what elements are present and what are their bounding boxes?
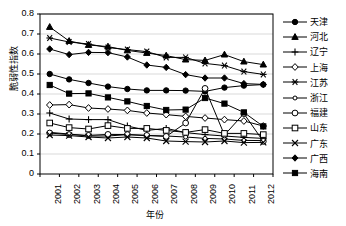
legend-label: 上海	[310, 61, 328, 74]
vulnerability-index-line-chart: 脆弱性指数 0.80.70.60.50.40.30.20.10 20012002…	[0, 0, 346, 226]
filled-square-icon	[282, 166, 308, 180]
legend-label: 海南	[310, 167, 328, 180]
legend-label: 江苏	[310, 76, 328, 89]
data-point-marker	[292, 64, 298, 71]
legend-item-广东[interactable]: 广东	[282, 136, 346, 151]
legend-item-浙江[interactable]: 浙江	[282, 90, 346, 105]
data-point-marker	[292, 110, 298, 116]
legend-label: 福建	[310, 106, 328, 119]
data-point-marker	[293, 96, 297, 100]
filled-triangle-icon	[282, 30, 308, 44]
x-tick-label: 2005	[131, 184, 140, 204]
x-tick-label: 2006	[151, 184, 160, 204]
x-tick-label: 2002	[73, 184, 82, 204]
data-point-marker	[292, 171, 297, 176]
legend-label: 天津	[310, 15, 328, 28]
x-tick-label: 2012	[267, 184, 276, 204]
data-point-marker	[292, 125, 298, 131]
x-tick-label: 2007	[170, 184, 179, 204]
legend-item-辽宁[interactable]: 辽宁	[282, 44, 346, 59]
x-tick-label: 2009	[209, 184, 218, 204]
legend-label: 广西	[310, 152, 328, 165]
x-tick-label: 2004	[112, 184, 121, 204]
legend-item-广西[interactable]: 广西	[282, 151, 346, 166]
x-tick-label: 2010	[228, 184, 237, 204]
filled-circle-icon	[282, 15, 308, 29]
x-tick-label: 2001	[54, 184, 63, 204]
x-tick-label: 2011	[248, 185, 257, 204]
legend-item-山东[interactable]: 山东	[282, 120, 346, 135]
data-point-marker	[292, 19, 297, 24]
legend-item-天津[interactable]: 天津	[282, 14, 346, 29]
open-square-icon	[282, 121, 308, 135]
cross-icon	[282, 136, 308, 150]
legend-item-海南[interactable]: 海南	[282, 166, 346, 181]
open-circle-icon	[282, 106, 308, 120]
legend: 天津河北辽宁上海江苏浙江福建山东广东广西海南	[282, 14, 346, 181]
plus-icon	[282, 45, 308, 59]
legend-item-福建[interactable]: 福建	[282, 105, 346, 120]
legend-item-上海[interactable]: 上海	[282, 60, 346, 75]
open-diamond-icon	[282, 60, 308, 74]
legend-label: 浙江	[310, 91, 328, 104]
legend-label: 广东	[310, 137, 328, 150]
x-tick-label: 2008	[190, 184, 199, 204]
legend-item-河北[interactable]: 河北	[282, 29, 346, 44]
legend-item-江苏[interactable]: 江苏	[282, 75, 346, 90]
data-point-marker	[292, 155, 298, 161]
small-open-circle-icon	[282, 91, 308, 105]
legend-label: 山东	[310, 121, 328, 134]
x-axis-title: 年份	[40, 208, 270, 221]
filled-diamond-icon	[282, 151, 308, 165]
legend-label: 辽宁	[310, 45, 328, 58]
star-icon	[282, 75, 308, 89]
legend-label: 河北	[310, 30, 328, 43]
x-tick-label: 2003	[93, 184, 102, 204]
